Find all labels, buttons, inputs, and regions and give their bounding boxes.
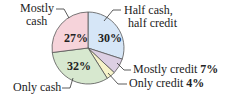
pct-half: 30% xyxy=(98,31,122,45)
label-mostly-cash-2: cash xyxy=(26,14,47,28)
label-mostly-cash-1: Mostly xyxy=(20,1,54,15)
label-only-credit: Only credit 4% xyxy=(129,76,204,90)
leader-mostly-cash xyxy=(56,9,69,18)
label-half-1: Half cash, xyxy=(124,3,173,17)
label-mostly-credit: Mostly credit 7% xyxy=(133,62,218,76)
label-only-cash: Only cash xyxy=(13,80,61,94)
label-half-2: half credit xyxy=(128,16,178,30)
pie-chart: 30% 27% 32% Half cash, half credit Mostl… xyxy=(0,0,229,102)
pct-only-cash: 32% xyxy=(67,59,91,73)
pie-slices xyxy=(52,12,124,84)
pct-mostly-cash: 27% xyxy=(64,31,88,45)
